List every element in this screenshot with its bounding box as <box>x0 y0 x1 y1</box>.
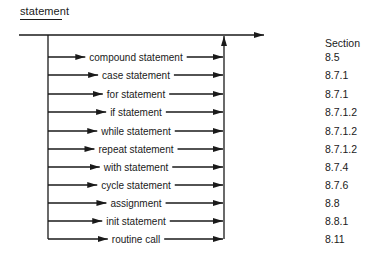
section-header: Section <box>325 37 360 49</box>
branch-label: cycle statement <box>101 180 171 191</box>
branch-label: with statement <box>103 162 169 173</box>
section-number: 8.7.1 <box>325 69 348 81</box>
branch-row: with statement <box>48 162 223 173</box>
section-number: 8.7.1.2 <box>325 143 357 155</box>
section-number: 8.7.4 <box>325 161 348 173</box>
branch-label: for statement <box>107 89 166 100</box>
branch-label: compound statement <box>89 52 183 63</box>
section-number: 8.7.6 <box>325 179 348 191</box>
section-number: 8.7.1 <box>325 88 348 100</box>
section-number: 8.8.1 <box>325 215 348 227</box>
branch-label: routine call <box>112 234 160 245</box>
branch-label: init statement <box>106 216 166 227</box>
branch-label: while statement <box>100 126 171 137</box>
section-number: 8.8 <box>325 197 340 209</box>
branch-label: assignment <box>110 198 161 209</box>
section-number: 8.11 <box>325 233 345 245</box>
branch-row: compound statement <box>48 52 223 63</box>
branch-row: for statement <box>48 89 223 100</box>
section-number: 8.7.1.2 <box>325 106 357 118</box>
branch-label: repeat statement <box>98 144 173 155</box>
branch-row: case statement <box>48 70 223 81</box>
section-number: 8.7.1.2 <box>325 125 357 137</box>
branch-row: assignment <box>48 198 223 209</box>
branch-row: if statement <box>48 107 223 118</box>
branch-row: cycle statement <box>48 180 223 191</box>
branch-label: if statement <box>110 107 162 118</box>
branch-row: init statement <box>48 216 223 227</box>
branch-label: case statement <box>102 70 170 81</box>
section-number: 8.5 <box>325 51 340 63</box>
branch-row: repeat statement <box>48 144 223 155</box>
branch-row: routine call <box>48 234 223 245</box>
syntax-diagram: compound statementcase statementfor stat… <box>0 0 376 257</box>
branch-row: while statement <box>48 126 223 137</box>
